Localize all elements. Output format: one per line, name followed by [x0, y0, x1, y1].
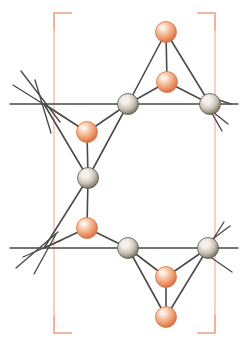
oxygen-sphere [156, 307, 177, 328]
sphere-specular-highlight [159, 25, 165, 30]
sphere-specular-highlight [80, 221, 86, 226]
atom-metal-bottom-right [198, 238, 219, 259]
atom-oxygen-left-lower [77, 218, 98, 239]
sphere-specular-highlight [160, 75, 166, 80]
oxygen-sphere [157, 72, 178, 93]
oxygen-sphere [156, 267, 177, 288]
atom-oxygen-top [156, 22, 177, 43]
atom-metal-bottom-left [118, 238, 139, 259]
sphere-specular-highlight [203, 97, 209, 102]
sphere-specular-highlight [201, 241, 207, 246]
atom-metal-top-left [118, 94, 139, 115]
structure-canvas [0, 0, 246, 348]
sphere-specular-highlight [121, 241, 127, 246]
metal-sphere [118, 238, 139, 259]
metal-sphere [78, 168, 99, 189]
atom-metal-center [78, 168, 99, 189]
sphere-specular-highlight [159, 310, 165, 315]
atom-metal-top-right [200, 94, 221, 115]
sphere-specular-highlight [121, 97, 127, 102]
atom-oxygen-bottom [156, 307, 177, 328]
atom-oxygen-lower-mid [156, 267, 177, 288]
sphere-specular-highlight [159, 270, 165, 275]
sphere-specular-highlight [80, 125, 86, 130]
metal-sphere [198, 238, 219, 259]
oxygen-sphere [77, 122, 98, 143]
metal-sphere [200, 94, 221, 115]
atom-oxygen-left-upper [77, 122, 98, 143]
metal-sphere [118, 94, 139, 115]
crystal-structure-figure [0, 0, 246, 348]
figure-background [0, 0, 246, 348]
atom-oxygen-upper-mid [157, 72, 178, 93]
oxygen-sphere [156, 22, 177, 43]
sphere-specular-highlight [81, 171, 87, 176]
oxygen-sphere [77, 218, 98, 239]
